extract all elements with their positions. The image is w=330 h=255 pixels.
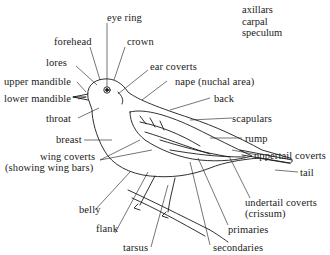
- label-uppertail-coverts: uppertail coverts: [254, 150, 326, 161]
- label-eye-ring: eye ring: [107, 12, 142, 23]
- legend-term-speculum: speculum: [242, 27, 282, 39]
- label-crown: crown: [127, 36, 154, 47]
- label-tarsus: tarsus: [123, 242, 148, 253]
- label-rump: rump: [245, 133, 268, 144]
- label-ear-coverts: ear coverts: [150, 61, 197, 72]
- label-throat: throat: [46, 113, 71, 124]
- bird-legs: [140, 176, 175, 212]
- perch-branch: [128, 190, 228, 242]
- label-scapulars: scapulars: [232, 113, 272, 124]
- label-forehead: forehead: [54, 36, 92, 47]
- label-lower-mandible: lower mandible: [4, 93, 71, 104]
- label-flank: flank: [96, 223, 118, 234]
- label-belly: belly: [79, 204, 101, 215]
- label-nape: nape (nuchal area): [175, 76, 254, 87]
- label-secondaries: secondaries: [213, 242, 263, 253]
- label-undertail-coverts: undertail coverts: [245, 197, 317, 208]
- label-wing-coverts: wing coverts: [40, 151, 95, 162]
- label-tail: tail: [300, 167, 314, 178]
- legend-terms: axillars carpal speculum: [242, 4, 282, 39]
- label-back: back: [214, 93, 234, 104]
- legend-term-axillars: axillars: [242, 4, 282, 16]
- label-undertail-coverts-note: (crissum): [245, 208, 286, 219]
- bird-topography-diagram: axillars carpal speculum eye ring forehe…: [0, 0, 330, 255]
- label-primaries: primaries: [228, 224, 269, 235]
- label-upper-mandible: upper mandible: [4, 76, 71, 87]
- label-lores: lores: [46, 57, 67, 68]
- label-breast: breast: [56, 134, 82, 145]
- label-wing-coverts-note: (showing wing bars): [5, 162, 93, 173]
- legend-term-carpal: carpal: [242, 16, 282, 28]
